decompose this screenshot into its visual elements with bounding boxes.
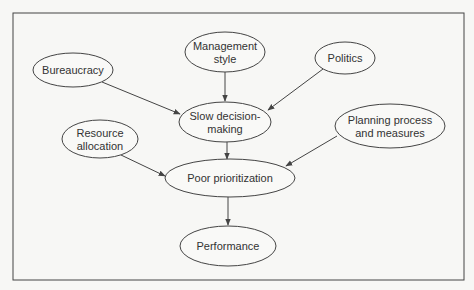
node-label: allocation <box>77 140 123 152</box>
node-planning: Planning processand measures <box>335 104 445 148</box>
node-label: and measures <box>355 127 425 139</box>
node-poor: Poor prioritization <box>165 159 295 197</box>
node-label: style <box>214 53 237 65</box>
node-label: Bureaucracy <box>42 64 104 76</box>
diagram-canvas: BureaucracyManagementstylePoliticsSlow d… <box>0 0 474 290</box>
node-label: Poor prioritization <box>187 172 273 184</box>
node-label: Slow decision- <box>190 110 261 122</box>
node-label: Resource <box>76 127 123 139</box>
node-label: making <box>207 123 242 135</box>
edge-planning-to-poor <box>286 136 337 166</box>
node-label: Management <box>193 40 257 52</box>
node-bureaucracy: Bureaucracy <box>33 53 113 87</box>
node-politics: Politics <box>315 42 375 74</box>
node-label: Performance <box>197 240 260 252</box>
node-label: Politics <box>328 52 363 64</box>
node-management: Managementstyle <box>185 32 265 72</box>
node-slow: Slow decision-making <box>179 102 271 142</box>
node-resource: Resourceallocation <box>62 120 138 158</box>
edges-layer <box>102 69 337 225</box>
edge-bureaucracy-to-slow <box>102 82 180 114</box>
node-label: Planning process <box>348 114 433 126</box>
node-performance: Performance <box>180 226 276 266</box>
edge-resource-to-poor <box>121 155 165 176</box>
diagram-svg: BureaucracyManagementstylePoliticsSlow d… <box>0 0 474 290</box>
nodes-layer: BureaucracyManagementstylePoliticsSlow d… <box>33 32 445 266</box>
edge-politics-to-slow <box>268 69 323 110</box>
